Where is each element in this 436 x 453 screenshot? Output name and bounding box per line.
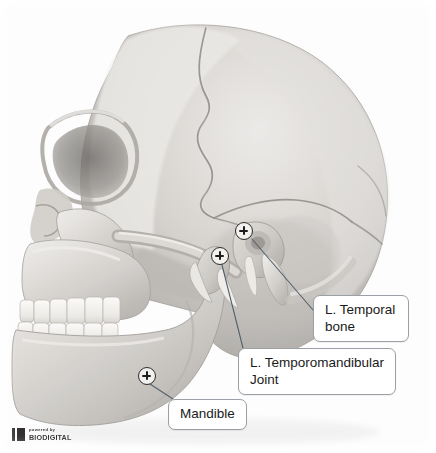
- biodigital-logo-icon: [12, 428, 25, 441]
- watermark-powered-by: powered by: [29, 428, 72, 432]
- watermark-text: powered by BIODIGITAL: [29, 428, 72, 441]
- anatomy-3d-viewer[interactable]: L. Temporal bone L. Temporomandibular Jo…: [0, 0, 436, 453]
- annotation-pin-mandible[interactable]: [138, 367, 156, 385]
- watermark-brand: BIODIGITAL: [29, 434, 72, 441]
- annotation-label-l-temporomandibular-joint[interactable]: L. Temporomandibular Joint: [238, 348, 396, 395]
- annotation-pin-l-temporomandibular-joint[interactable]: [211, 247, 229, 265]
- annotation-pin-l-temporal-bone[interactable]: [235, 222, 253, 240]
- biodigital-watermark[interactable]: powered by BIODIGITAL: [12, 428, 72, 441]
- annotation-label-mandible[interactable]: Mandible: [168, 399, 247, 430]
- annotation-label-l-temporal-bone[interactable]: L. Temporal bone: [313, 295, 409, 342]
